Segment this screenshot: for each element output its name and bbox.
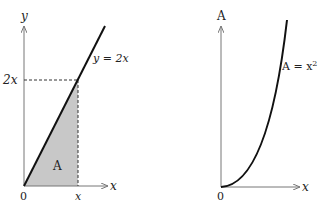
y-tick-label: 2x — [2, 73, 18, 87]
curve-a-x-squared — [221, 20, 287, 187]
right-graph: A x 0 A = x2 — [216, 9, 317, 203]
line-label: y = 2x — [92, 52, 129, 65]
left-graph: y x 0 x 2x y = 2x A — [2, 9, 129, 203]
curve-label: A = x2 — [281, 59, 317, 73]
a-axis-label: A — [216, 9, 226, 23]
x-tick-label: x — [75, 190, 82, 203]
diagram: y x 0 x 2x y = 2x A A x 0 A = x2 — [0, 0, 324, 211]
area-label: A — [52, 159, 62, 173]
y-axis-label: y — [20, 9, 28, 23]
x-axis-label: x — [110, 179, 117, 193]
origin-label: 0 — [20, 190, 27, 203]
x-axis-label: x — [302, 180, 309, 194]
origin-label: 0 — [217, 190, 224, 203]
